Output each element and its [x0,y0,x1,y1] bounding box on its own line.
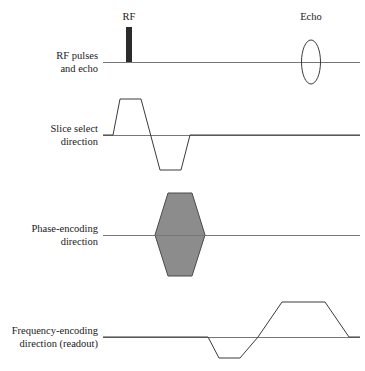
rf-event-label: RF [123,11,136,22]
row-label-slice-line2: direction [61,136,99,147]
row-frequency-encoding-direction: Frequency-encoding direction (readout) [12,302,360,358]
rf-pulse-bar [126,27,132,62]
row-rf-pulses-and-echo: RF pulses and echo [56,27,360,84]
readout-gradient-waveform [103,302,360,358]
row-label-phase-line2: direction [61,236,99,247]
row-label-rf-line2: and echo [60,63,98,74]
row-slice-select-direction: Slice select direction [50,99,360,170]
echo-event-label: Echo [300,11,322,22]
row-label-frequency-line2: direction (readout) [20,338,99,350]
row-label-rf-line1: RF pulses [56,50,98,61]
row-label-phase-line1: Phase-encoding [32,223,99,234]
pulse-sequence-diagram: RF Echo RF pulses and echo Slice select … [0,0,365,371]
row-label-slice-line1: Slice select [50,123,98,134]
sequence-canvas: RF Echo RF pulses and echo Slice select … [0,0,365,371]
row-label-frequency-line1: Frequency-encoding [12,325,99,336]
row-phase-encoding-direction: Phase-encoding direction [32,193,360,276]
